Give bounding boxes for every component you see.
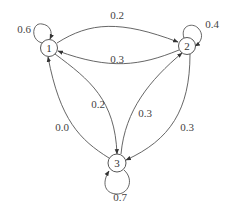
- edge-label-1-1: 0.6: [17, 23, 31, 35]
- edge-label-1-2: 0.2: [110, 9, 124, 21]
- edge-label-1-3: 0.2: [91, 98, 105, 110]
- node-1-label: 1: [46, 42, 52, 54]
- edge-1-to-2: [57, 26, 178, 43]
- edge-label-3-1: 0.0: [55, 121, 69, 133]
- node-3: 3: [108, 154, 126, 172]
- edge-label-2-1: 0.3: [110, 53, 124, 65]
- node-2-label: 2: [184, 40, 190, 52]
- edge-3-to-2: [121, 53, 182, 154]
- edge-label-3-2: 0.3: [138, 107, 152, 119]
- edge-1-to-3: [55, 54, 117, 154]
- node-1: 1: [41, 40, 58, 57]
- edge-label-3-3: 0.7: [113, 191, 127, 203]
- edge-label-2-3: 0.3: [180, 121, 194, 133]
- markov-chain-diagram: 1 2 3 0.6 0.2 0.3 0.4 0.2 0.3 0.3 0.0 0.…: [0, 0, 225, 211]
- edge-label-2-2: 0.4: [205, 18, 219, 30]
- node-2: 2: [179, 38, 196, 55]
- node-3-label: 3: [114, 157, 120, 169]
